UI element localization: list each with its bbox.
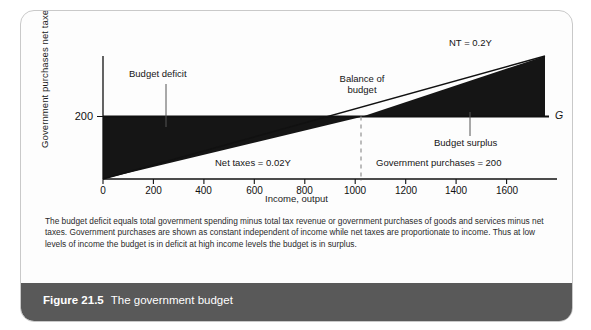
- y-axis-label: Government purchases net taxes: [39, 10, 50, 162]
- budget-deficit-region: [103, 117, 361, 179]
- budget-deficit-label: Budget deficit: [129, 68, 187, 79]
- figure-caption: The budget deficit equals total governme…: [45, 216, 550, 250]
- budget-surplus-label: Budget surplus: [434, 137, 497, 148]
- x-tick-marks: [103, 179, 507, 184]
- x-axis-label: Income, output: [21, 193, 572, 204]
- chart-area: Government purchases net taxes 200 0 200…: [21, 11, 572, 206]
- g-line-label: G: [555, 110, 563, 121]
- balance-of-budget-label-line1: Balance of: [316, 73, 408, 84]
- nt-equation-label: NT = 0.2Y: [449, 37, 492, 48]
- figure-footer-bar: Figure 21.5The government budget: [21, 283, 573, 321]
- y-tick-label-200: 200: [55, 110, 93, 122]
- figure-page: Government purchases net taxes 200 0 200…: [0, 0, 591, 330]
- figure-title: The government budget: [111, 294, 233, 306]
- balance-of-budget-label-line2: budget: [316, 84, 408, 95]
- gov-purchases-equation-label: Government purchases = 200: [376, 157, 501, 168]
- figure-number: Figure 21.5: [43, 294, 104, 306]
- figure-footer-text: Figure 21.5The government budget: [43, 294, 233, 306]
- net-taxes-equation-label: Net taxes = 0.02Y: [215, 157, 291, 168]
- figure-card: Government purchases net taxes 200 0 200…: [20, 10, 573, 322]
